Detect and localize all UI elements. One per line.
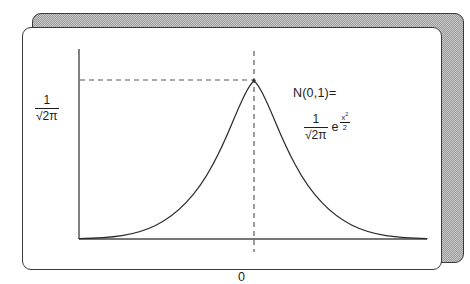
equation-coefficient-denominator: √2π — [304, 129, 328, 142]
y-tick-denominator: √2π — [35, 110, 59, 123]
gaussian-curve — [79, 81, 427, 239]
equation-coefficient-numerator: 1 — [304, 113, 328, 126]
equation-exponent-denominator: 2 — [340, 124, 351, 132]
equation-exponent-power: 2 — [345, 111, 348, 117]
y-axis-tick-label: 1 √2π — [35, 94, 59, 122]
figure-card: 1 √2π N(0,1)= 1 √2π e x2 2 — [22, 27, 442, 270]
equation-body-label: 1 √2π e x2 2 — [304, 113, 350, 141]
figure-canvas: 1 √2π N(0,1)= 1 √2π e x2 2 — [0, 0, 470, 284]
y-tick-numerator: 1 — [35, 94, 59, 107]
peak-point-marker — [252, 79, 255, 82]
equation-exponential-base: e — [332, 121, 339, 134]
equation-head-label: N(0,1)= — [293, 87, 336, 100]
equation-exponent: x2 2 — [340, 112, 351, 132]
plot-area — [23, 28, 443, 271]
equation-exponent-fraction: x2 2 — [340, 112, 351, 132]
equation-exponent-numerator: x2 — [340, 112, 351, 121]
equation-coefficient-fraction: 1 √2π — [304, 113, 328, 141]
x-axis-origin-label: 0 — [238, 271, 245, 284]
